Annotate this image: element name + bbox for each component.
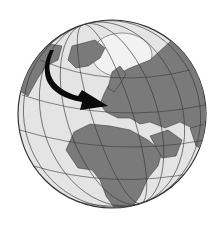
- globe-sphere: [0, 0, 222, 230]
- globe-illustration: [0, 0, 222, 230]
